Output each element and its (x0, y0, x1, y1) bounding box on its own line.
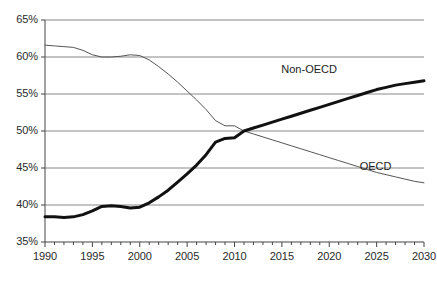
x-axis-tick-label: 2000 (120, 250, 160, 262)
y-axis-ticks (41, 20, 45, 242)
y-axis-tick-label: 55% (4, 87, 38, 99)
x-axis-tick-label: 2010 (215, 250, 255, 262)
x-axis-tick-label: 2030 (404, 250, 437, 262)
y-axis-tick-label: 45% (4, 161, 38, 173)
x-axis-tick-label: 2015 (262, 250, 302, 262)
y-axis-tick-label: 60% (4, 50, 38, 62)
y-axis-tick-label: 65% (4, 13, 38, 25)
gridlines (45, 20, 424, 205)
y-axis-tick-label: 50% (4, 124, 38, 136)
x-axis-tick-label: 1990 (25, 250, 65, 262)
x-axis-tick-label: 2005 (167, 250, 207, 262)
y-axis-tick-label: 35% (4, 235, 38, 247)
x-axis-tick-label: 2020 (309, 250, 349, 262)
x-axis-tick-label: 1995 (72, 250, 112, 262)
y-axis-tick-label: 40% (4, 198, 38, 210)
x-axis-tick-label: 2025 (357, 250, 397, 262)
series-label-non-oecd: Non-OECD (281, 63, 337, 75)
x-axis-ticks (45, 242, 424, 247)
chart-container: 65%60%55%50%45%40%35% 199019952000200520… (0, 0, 437, 282)
series-label-oecd: OECD (360, 160, 392, 172)
series-line-non-oecd (45, 81, 424, 218)
chart-plot-area (0, 0, 437, 282)
